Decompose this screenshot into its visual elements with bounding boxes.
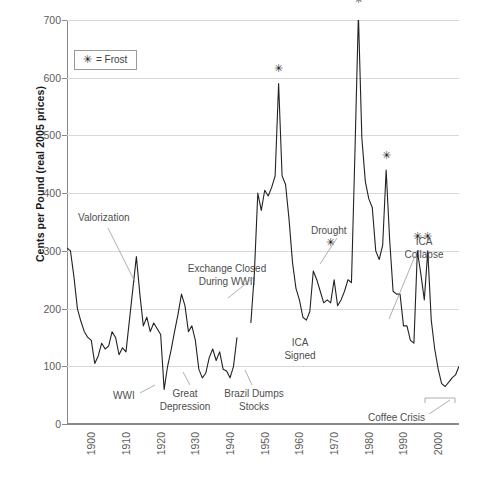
annotation-great-depression-l1: Great <box>172 388 197 400</box>
annotation-great-depression-l2: Depression <box>160 401 211 413</box>
x-tick-label: 1980 <box>363 432 375 455</box>
y-tick-label: 600 <box>43 72 61 84</box>
annotation-brazil-dumps-l1: Brazil Dumps <box>224 388 283 400</box>
chart-root: Cents per Pound (real 2005 prices) 01002… <box>0 0 482 477</box>
y-tick-label: 700 <box>43 14 61 26</box>
annotation-ica-signed-l2: Signed <box>284 350 315 362</box>
y-tick-label: 300 <box>43 245 61 257</box>
y-tick-mark <box>62 424 67 425</box>
series-line <box>251 20 459 386</box>
annotation-exchange-closed-l2: During WWII <box>199 276 256 288</box>
annotation-wwi: WWI <box>113 390 135 402</box>
y-tick-label: 0 <box>55 418 61 430</box>
frost-icon: ✳ <box>326 237 335 248</box>
frost-icon: ✳ <box>274 63 283 74</box>
x-tick-label: 2000 <box>432 432 444 455</box>
frost-icon: ✳ <box>83 54 92 65</box>
x-tick-label: 1970 <box>328 432 340 455</box>
x-tick-label: 1920 <box>155 432 167 455</box>
y-tick-label: 400 <box>43 187 61 199</box>
annotation-ica-collapse-l2: Collapse <box>405 249 444 261</box>
y-tick-label: 200 <box>43 303 61 315</box>
legend-label: = Frost <box>96 55 127 65</box>
frost-icon: ✳ <box>354 0 363 5</box>
y-tick-label: 100 <box>43 360 61 372</box>
annotation-drought: Drought <box>311 225 347 237</box>
x-tick-label: 1990 <box>397 432 409 455</box>
annotation-exchange-closed-l1: Exchange Closed <box>188 263 266 275</box>
legend-frost: ✳ = Frost <box>74 50 137 70</box>
x-tick-label: 1910 <box>120 432 132 455</box>
annotation-ica-collapse-l1: ICA <box>416 236 433 248</box>
x-tick-label: 1940 <box>224 432 236 455</box>
frost-icon: ✳ <box>382 150 391 161</box>
annotation-brazil-dumps-l2: Stocks <box>239 401 269 413</box>
annotation-ica-signed-l1: ICA <box>292 337 309 349</box>
y-tick-label: 500 <box>43 129 61 141</box>
x-tick-label: 1950 <box>259 432 271 455</box>
x-tick-label: 1960 <box>293 432 305 455</box>
annotation-coffee-crisis: Coffee Crisis <box>368 412 425 424</box>
x-tick-label: 1900 <box>85 432 97 455</box>
x-tick-label: 1930 <box>189 432 201 455</box>
annotation-valorization: Valorization <box>78 212 130 224</box>
